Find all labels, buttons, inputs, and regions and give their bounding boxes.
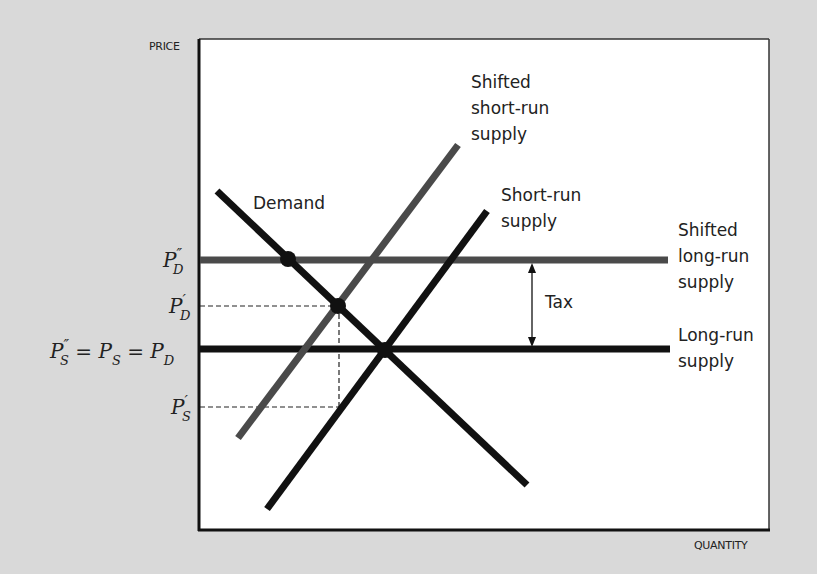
short-run-supply-label-1: Short-run: [501, 185, 581, 205]
price-label-pd-double-prime: P″D: [162, 245, 184, 277]
tax-label: Tax: [544, 292, 573, 312]
y-axis-title: PRICE: [149, 40, 180, 53]
price-label-equilibrium: P″S = PS = PD: [49, 336, 175, 368]
price-label-ps-prime: P′S: [170, 392, 191, 424]
shifted-short-run-supply-label-2: short-run: [471, 98, 549, 118]
short-run-supply-label-2: supply: [501, 211, 557, 231]
long-run-supply-label-1: Long-run: [678, 325, 754, 345]
shifted-long-run-supply-label-2: long-run: [678, 246, 749, 266]
equilibrium-point-taxed: [280, 251, 296, 267]
equilibrium-point-short-run: [330, 298, 346, 314]
equilibrium-point-initial: [377, 342, 393, 358]
shifted-short-run-supply-label-1: Shifted: [471, 72, 531, 92]
long-run-supply-label-2: supply: [678, 351, 734, 371]
demand-label: Demand: [253, 193, 325, 213]
price-label-pd-prime: P′D: [168, 291, 191, 323]
shifted-long-run-supply-label-1: Shifted: [678, 220, 738, 240]
shifted-long-run-supply-label-3: supply: [678, 272, 734, 292]
shifted-short-run-supply-label-3: supply: [471, 124, 527, 144]
x-axis-title: QUANTITY: [694, 539, 748, 552]
svg-text:P″S = PS = PD: P″S = PS = PD: [49, 336, 175, 368]
